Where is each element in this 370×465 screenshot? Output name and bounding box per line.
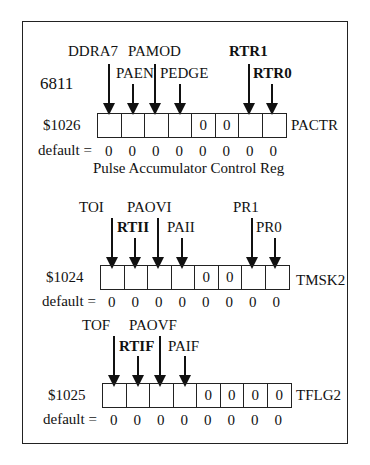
- default-value: 0: [168, 143, 192, 160]
- register-bit-boxes: 0 0: [100, 265, 290, 290]
- bit-label-pr1: PR1: [233, 200, 259, 215]
- default-value: 0: [243, 412, 267, 429]
- register-name: TFLG2: [296, 388, 341, 403]
- bit-cell: [127, 384, 151, 407]
- default-value: 0: [102, 412, 126, 429]
- bit-cell: 0: [197, 384, 221, 407]
- default-label: default =: [38, 143, 92, 158]
- register-bit-boxes: 0 0 0 0: [102, 383, 292, 408]
- bit-cell: [172, 266, 196, 289]
- default-values: 0 0 0 0 0 0 0 0: [102, 412, 290, 429]
- bit-cell: 0: [244, 384, 268, 407]
- default-value: 0: [191, 143, 215, 160]
- bit-cell: [148, 266, 172, 289]
- register-name: TMSK2: [296, 273, 345, 288]
- bit-cell: [145, 114, 169, 137]
- default-label: default =: [43, 412, 97, 427]
- default-value: 0: [126, 412, 150, 429]
- default-value: 0: [100, 294, 124, 311]
- default-value: 0: [241, 294, 265, 311]
- default-values: 0 0 0 0 0 0 0 0: [97, 143, 285, 160]
- default-value: 0: [262, 143, 286, 160]
- default-value: 0: [149, 412, 173, 429]
- register-address: $1025: [48, 388, 86, 403]
- bit-cell: 0: [268, 384, 292, 407]
- bit-cell: [103, 384, 127, 407]
- bit-cell: [150, 384, 174, 407]
- bit-cell: 0: [221, 384, 245, 407]
- default-value: 0: [147, 294, 171, 311]
- bit-label-pedge: PEDGE: [160, 66, 208, 81]
- default-value: 0: [265, 294, 289, 311]
- register-bit-boxes: 0 0: [97, 113, 287, 138]
- bit-label-rtr1: RTR1: [229, 44, 268, 59]
- default-value: 0: [267, 412, 291, 429]
- register-address: $1026: [43, 118, 81, 133]
- bit-cell: [174, 384, 198, 407]
- default-value: 0: [194, 294, 218, 311]
- bit-cell: [98, 114, 122, 137]
- bit-label-rtii: RTII: [117, 220, 149, 235]
- bit-label-paovf: PAOVF: [129, 318, 177, 333]
- bit-label-tof: TOF: [82, 318, 110, 333]
- bit-label-toi: TOI: [79, 200, 104, 215]
- register-address: $1024: [46, 270, 84, 285]
- bit-label-paen: PAEN: [116, 66, 154, 81]
- bit-label-ddra7: DDRA7: [68, 44, 118, 59]
- bit-cell: [101, 266, 125, 289]
- bit-cell: [266, 266, 290, 289]
- register-name: PACTR: [291, 118, 338, 133]
- default-value: 0: [215, 143, 239, 160]
- default-value: 0: [121, 143, 145, 160]
- default-value: 0: [220, 412, 244, 429]
- default-value: 0: [144, 143, 168, 160]
- bit-cell: 0: [195, 266, 219, 289]
- bit-label-paif: PAIF: [168, 339, 199, 354]
- default-values: 0 0 0 0 0 0 0 0: [100, 294, 288, 311]
- default-value: 0: [171, 294, 195, 311]
- bit-cell: 0: [216, 114, 240, 137]
- default-value: 0: [218, 294, 242, 311]
- register-caption: Pulse Accumulator Control Reg: [93, 161, 284, 176]
- bit-label-pr0: PR0: [256, 220, 282, 235]
- bit-cell: [169, 114, 193, 137]
- bit-cell: 0: [219, 266, 243, 289]
- bit-label-rtr0: RTR0: [253, 66, 292, 81]
- bit-cell: [239, 114, 263, 137]
- bit-label-paovi: PAOVI: [127, 200, 171, 215]
- bit-label-pamod: PAMOD: [128, 44, 181, 59]
- default-value: 0: [196, 412, 220, 429]
- bit-cell: [122, 114, 146, 137]
- default-value: 0: [97, 143, 121, 160]
- default-value: 0: [124, 294, 148, 311]
- chip-label: 6811: [40, 75, 73, 92]
- bit-label-rtif: RTIF: [119, 339, 154, 354]
- bit-cell: [125, 266, 149, 289]
- bit-cell: 0: [192, 114, 216, 137]
- bit-cell: [242, 266, 266, 289]
- bit-label-paii: PAII: [167, 220, 195, 235]
- bit-cell: [263, 114, 287, 137]
- default-value: 0: [238, 143, 262, 160]
- default-value: 0: [173, 412, 197, 429]
- default-label: default =: [42, 294, 96, 309]
